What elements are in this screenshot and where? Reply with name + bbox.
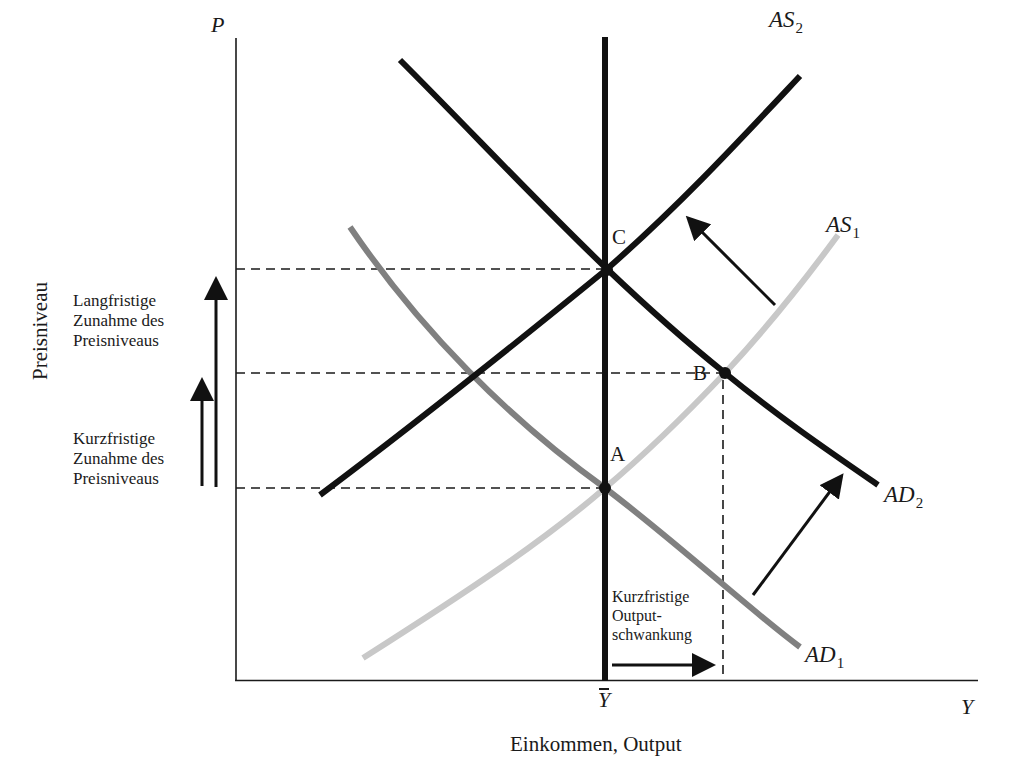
point-b [719, 367, 731, 379]
as-shift-arrow [690, 220, 775, 305]
short-run-increase-text: Kurzfristige Zunahme des Preisniveaus [73, 429, 164, 489]
point-c-label: C [612, 227, 626, 248]
as1-label: AS1 [826, 213, 860, 241]
point-b-label: B [693, 363, 707, 384]
ad-shift-arrow [753, 478, 840, 595]
y-axis-label: Preisniveau [28, 282, 53, 380]
long-run-increase-text: Langfristige Zunahme des Preisniveaus [73, 291, 164, 351]
y-axis-symbol: P [211, 14, 224, 36]
as2-label: AS2 [769, 8, 803, 36]
potential-output-label: Y [598, 687, 610, 713]
point-a [599, 482, 611, 494]
x-axis-label: Einkommen, Output [510, 732, 682, 757]
ad2-label: AD2 [884, 483, 923, 511]
ad1-label: AD1 [805, 643, 844, 671]
x-axis-symbol: Y [961, 696, 973, 718]
output-fluctuation-text: Kurzfristige Output- schwankung [612, 587, 692, 644]
point-c [601, 264, 613, 276]
ad1-curve [350, 227, 800, 647]
ad-as-diagram [0, 0, 1012, 778]
point-a-label: A [610, 444, 625, 465]
